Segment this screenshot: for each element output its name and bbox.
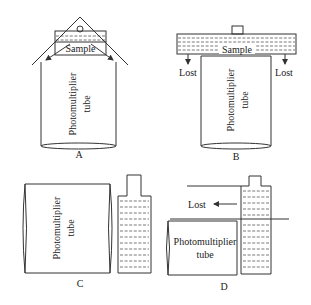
diagram-canvas: Photomultiplier tube Sample A [0, 0, 311, 305]
tube-label-d: Photomultiplier [174, 236, 237, 247]
tube-label-b: Photomultiplier [225, 68, 236, 131]
lost-label-b-left: Lost [179, 67, 197, 78]
panel-a: Photomultiplier tube Sample A [32, 17, 128, 160]
panel-d: Lost Photomultiplier tube D [167, 176, 290, 292]
lost-label-b-right: Lost [275, 67, 293, 78]
tube-label-a-2: tube [81, 95, 92, 113]
panel-label-d: D [220, 281, 227, 292]
photomultiplier-tube-b: Photomultiplier tube [201, 56, 271, 149]
tube-label-d-2: tube [196, 249, 214, 260]
photomultiplier-tube-c: Photomultiplier tube [23, 184, 112, 273]
tube-label-c: Photomultiplier [51, 196, 62, 259]
panel-label-a: A [75, 149, 83, 160]
lost-arrows-b: Lost Lost [179, 54, 293, 78]
lost-label-d: Lost [188, 199, 206, 210]
photomultiplier-tube-d: Photomultiplier tube [167, 221, 238, 275]
panel-label-c: C [77, 278, 84, 289]
sample-vial-d [241, 176, 271, 274]
lost-arrow-d: Lost [188, 199, 237, 210]
panel-b: Sample Lost Lost Photomultiplier tube B [177, 26, 296, 162]
tube-label-b-2: tube [239, 91, 250, 109]
photomultiplier-tube-a: Photomultiplier tube [41, 62, 116, 149]
panel-c: Photomultiplier tube C [23, 175, 151, 289]
sample-label-b: Sample [222, 44, 253, 55]
sample-holder-a: Sample [32, 17, 128, 65]
tube-label-c-2: tube [65, 219, 76, 237]
tube-label-a: Photomultiplier [67, 72, 78, 135]
sample-holder-b: Sample [177, 26, 296, 55]
panel-label-b: B [233, 151, 240, 162]
sample-vial-c [118, 175, 151, 273]
